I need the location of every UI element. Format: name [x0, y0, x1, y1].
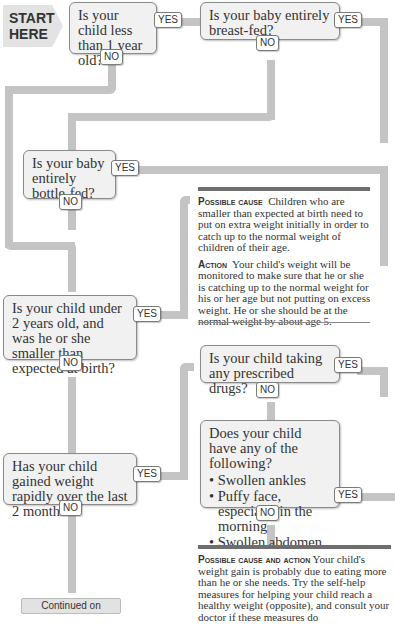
cause-and-action-note: Possible cause and action Your child's w… — [198, 554, 393, 625]
no-button[interactable]: NO — [59, 194, 82, 210]
path — [180, 363, 188, 480]
no-button[interactable]: NO — [100, 49, 123, 65]
cause-lead: Possible cause — [198, 196, 263, 207]
question-text: Does your child have any of the followin… — [209, 425, 302, 471]
question-bottle-fed: Is your baby entirely bottle-fed? — [23, 150, 116, 199]
path — [180, 196, 188, 319]
path — [5, 86, 13, 248]
yes-button[interactable]: YES — [334, 357, 362, 373]
start-line-1: START — [9, 10, 63, 26]
possible-cause-note: Possible cause Children who are smaller … — [198, 196, 373, 333]
no-button[interactable]: NO — [59, 500, 82, 516]
yes-button[interactable]: YES — [133, 466, 161, 482]
cause-action-lead: Possible cause and action — [198, 554, 310, 565]
path — [180, 196, 190, 204]
path — [267, 402, 275, 422]
question-under-2-small-at-birth: Is your child under 2 years old, and was… — [3, 295, 137, 360]
divider — [198, 545, 391, 549]
no-button[interactable]: NO — [59, 355, 82, 371]
path — [68, 210, 76, 230]
divider — [198, 322, 370, 323]
continued-on-link[interactable]: Continued on — [21, 598, 121, 614]
path — [132, 166, 387, 174]
no-button[interactable]: NO — [256, 35, 279, 51]
symptom-item: Swollen ankles — [209, 473, 331, 488]
path — [5, 86, 116, 94]
question-swelling-symptoms: Does your child have any of the followin… — [200, 420, 340, 508]
path — [380, 367, 388, 397]
question-text: Is your baby entirely breast-fed? — [209, 7, 329, 38]
yes-button[interactable]: YES — [133, 306, 161, 322]
path — [380, 166, 388, 266]
path — [357, 493, 395, 501]
no-button[interactable]: NO — [256, 505, 279, 521]
path — [68, 242, 76, 292]
path — [267, 60, 275, 120]
yes-button[interactable]: YES — [154, 12, 182, 28]
path — [68, 113, 275, 121]
action-lead: Action — [198, 259, 227, 270]
start-here-marker: START HERE — [3, 5, 63, 47]
yes-button[interactable]: YES — [334, 12, 362, 28]
yes-button[interactable]: YES — [334, 487, 362, 503]
question-prescribed-drugs: Is your child taking any prescribed drug… — [200, 345, 340, 383]
path — [5, 242, 75, 250]
path — [68, 515, 76, 593]
yes-button[interactable]: YES — [111, 160, 139, 176]
start-line-2: HERE — [9, 26, 63, 42]
question-under-1-year: Is your child less than 1 year old? — [69, 2, 157, 54]
path — [180, 363, 194, 371]
path — [380, 18, 388, 143]
divider — [198, 187, 370, 191]
question-rapid-weight-gain: Has your child gained weight rapidly ove… — [3, 453, 137, 505]
no-button[interactable]: NO — [256, 382, 279, 398]
path — [68, 113, 76, 153]
path — [68, 377, 76, 457]
